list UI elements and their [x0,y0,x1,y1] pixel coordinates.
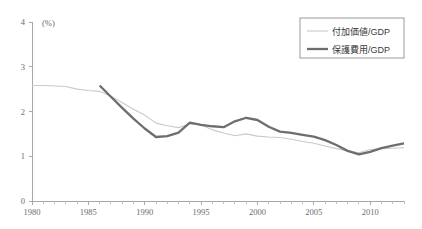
x-tick-label: 1990 [136,207,153,217]
y-axis: 01234 [21,17,32,206]
y-tick-label: 3 [21,62,25,72]
legend-label-value-added-gdp: 付加価値/GDP [332,26,390,37]
x-tick-label: 1980 [24,207,41,217]
series-line-protection-cost-gdp [100,86,404,155]
x-tick-label: 1995 [193,207,210,217]
x-tick-label: 2005 [305,207,322,217]
legend-label-protection-cost-gdp: 保護費用/GDP [332,44,390,55]
series-lines [32,86,404,155]
x-tick-label: 1985 [80,207,97,217]
x-tick-label: 2010 [362,207,379,217]
chart-container: 01234 1980198519901995200020052010 (%) 付… [0,0,422,229]
y-tick-label: 0 [21,196,25,206]
x-tick-label: 2000 [249,207,266,217]
y-axis-unit-text: (%) [42,18,55,28]
y-axis-unit-label: (%) [42,18,55,28]
line-chart: 01234 1980198519901995200020052010 (%) 付… [0,0,422,229]
x-axis: 1980198519901995200020052010 [24,201,405,217]
y-tick-label: 4 [21,17,26,27]
chart-legend: 付加価値/GDP保護費用/GDP [300,18,404,58]
series-line-value-added-gdp [32,86,404,153]
y-tick-label: 1 [21,151,25,161]
y-tick-label: 2 [21,107,25,117]
